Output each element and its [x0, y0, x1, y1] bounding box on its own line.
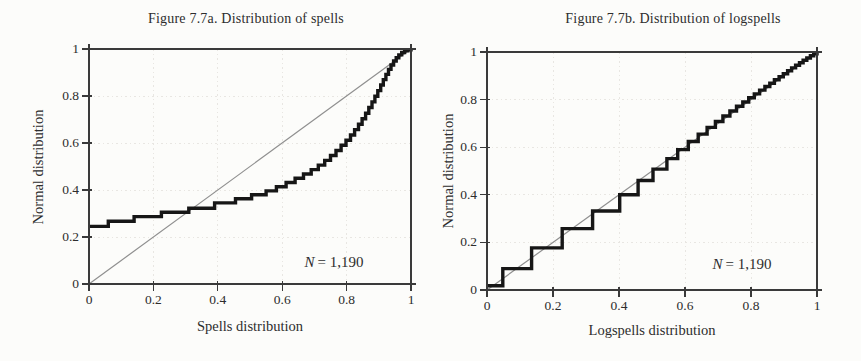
x-tick-label: 0 [67, 292, 111, 308]
chart-logspells: Figure 7.7b. Distribution of logspells N… [430, 0, 861, 361]
x-tick-label: 0.8 [729, 298, 773, 314]
annotation-value: = 1,190 [726, 256, 772, 272]
sample-size-annotation: N= 1,190 [305, 254, 364, 271]
y-tick-label: 0.2 [35, 229, 79, 245]
step-curve [487, 52, 817, 286]
chart-title: Figure 7.7b. Distribution of logspells [565, 11, 780, 27]
x-axis-label: Logspells distribution [589, 322, 716, 339]
annotation-value: = 1,190 [318, 254, 364, 270]
diagonal-reference-line [89, 49, 411, 284]
figure-7.7-pp-plots: Figure 7.7a. Distribution of spells Norm… [0, 0, 861, 361]
x-tick-label: 0.8 [325, 292, 369, 308]
x-tick-label: 0 [465, 298, 509, 314]
y-tick-label: 0 [433, 282, 477, 298]
x-tick-label: 0.6 [260, 292, 304, 308]
y-tick-label: 0.6 [35, 135, 79, 151]
y-axis-label: Normal distribution [30, 109, 47, 224]
x-tick-label: 0.4 [597, 298, 641, 314]
y-tick-label: 0.8 [433, 92, 477, 108]
sample-size-annotation: N= 1,190 [713, 256, 772, 273]
x-tick-label: 0.6 [663, 298, 707, 314]
y-axis-label: Normal distribution [440, 114, 457, 229]
annotation-variable: N [305, 254, 315, 270]
x-tick-label: 0.4 [196, 292, 240, 308]
y-tick-label: 0 [35, 276, 79, 292]
x-axis-label: Spells distribution [197, 318, 303, 335]
step-curve [89, 49, 411, 226]
y-tick-label: 0.6 [433, 139, 477, 155]
x-tick-label: 1 [389, 292, 433, 308]
y-tick-label: 0.2 [433, 234, 477, 250]
y-tick-label: 0.8 [35, 88, 79, 104]
x-tick-label: 1 [795, 298, 839, 314]
chart-title: Figure 7.7a. Distribution of spells [148, 11, 344, 27]
chart-spells: Figure 7.7a. Distribution of spells Norm… [0, 0, 430, 361]
x-tick-label: 0.2 [131, 292, 175, 308]
annotation-variable: N [713, 256, 723, 272]
y-tick-label: 0.4 [433, 187, 477, 203]
y-tick-label: 0.4 [35, 182, 79, 198]
x-tick-label: 0.2 [531, 298, 575, 314]
y-tick-label: 1 [433, 44, 477, 60]
y-tick-label: 1 [35, 41, 79, 57]
